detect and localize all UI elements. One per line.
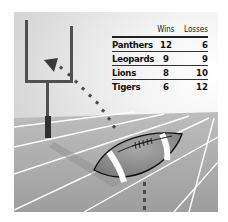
table-header: Wins Losses — [112, 22, 208, 34]
team-name: Lions — [112, 66, 156, 79]
team-name: Leopards — [112, 52, 156, 65]
header-losses: Losses — [176, 25, 208, 34]
losses-value: 12 — [176, 80, 208, 93]
table-row: Leopards 9 9 — [112, 51, 208, 65]
wins-value: 12 — [156, 38, 176, 51]
losses-value: 6 — [176, 38, 208, 51]
team-name: Tigers — [112, 80, 156, 93]
table-row: Lions 8 10 — [112, 65, 208, 79]
header-wins: Wins — [156, 25, 176, 34]
table-row: Panthers 12 6 — [112, 36, 208, 51]
losses-value: 10 — [176, 66, 208, 79]
wins-value: 9 — [156, 52, 176, 65]
table-row: Tigers 6 12 — [112, 79, 208, 93]
standings-table: Wins Losses Panthers 12 6 Leopards 9 9 L… — [112, 22, 208, 93]
wins-value: 8 — [156, 66, 176, 79]
team-name: Panthers — [112, 38, 156, 51]
football-illustration: Wins Losses Panthers 12 6 Leopards 9 9 L… — [14, 12, 218, 212]
wins-value: 6 — [156, 80, 176, 93]
losses-value: 9 — [176, 52, 208, 65]
arrowhead-icon — [44, 58, 58, 72]
